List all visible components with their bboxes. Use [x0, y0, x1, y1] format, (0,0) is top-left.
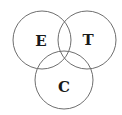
- venn-diagram: E T C: [0, 0, 122, 115]
- label-e: E: [35, 32, 46, 50]
- label-c: C: [58, 78, 70, 96]
- label-t: T: [82, 31, 94, 49]
